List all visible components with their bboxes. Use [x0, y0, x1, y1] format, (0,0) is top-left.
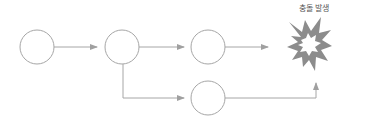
explosion-icon [287, 17, 332, 71]
flow-diagram [0, 0, 368, 123]
node-1 [20, 30, 54, 64]
node-4 [191, 81, 225, 115]
edge-node4-collision [225, 83, 316, 98]
collision-label: 충돌 발생 [290, 2, 338, 13]
edge-node2-node4 [123, 64, 184, 98]
node-2 [105, 30, 139, 64]
node-3 [191, 30, 225, 64]
